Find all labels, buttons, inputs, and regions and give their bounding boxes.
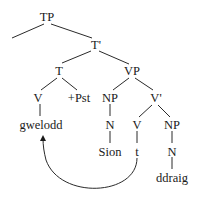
movement-arrow (43, 138, 137, 188)
node-n-subj: N (105, 118, 114, 132)
edge-vp-np (113, 78, 129, 90)
node-np-subj: NP (102, 91, 118, 105)
node-t: T (55, 64, 63, 78)
node-ddraig: ddraig (156, 171, 189, 185)
edge-vbar-np (158, 105, 170, 117)
node-tp: TP (40, 10, 55, 24)
node-gwelodd: gwelodd (19, 118, 63, 132)
edge-t-pst (62, 78, 77, 90)
node-t-bar: T' (91, 38, 101, 52)
node-v-bar: V' (150, 91, 161, 105)
edge-t-v (41, 78, 57, 90)
edge-tbar-t (62, 51, 91, 63)
node-vp: VP (124, 64, 140, 78)
edge-tp-spec (12, 24, 44, 38)
edge-vbar-v (139, 105, 152, 117)
node-n-obj: N (167, 145, 176, 159)
node-sion: Sion (99, 145, 123, 159)
edge-tbar-vp (99, 51, 129, 64)
tree-labels: TP T' T VP V +Pst NP V' gwelodd N V NP S… (19, 10, 188, 185)
node-trace: t (135, 145, 139, 159)
node-pst: +Pst (68, 91, 91, 105)
node-np-obj: NP (164, 118, 180, 132)
syntax-tree-diagram: TP T' T VP V +Pst NP V' gwelodd N V NP S… (0, 0, 197, 198)
edge-vp-vbar (135, 78, 153, 90)
node-v-trace: V (132, 118, 141, 132)
node-v-head: V (33, 91, 42, 105)
edge-tp-tbar (51, 24, 92, 38)
